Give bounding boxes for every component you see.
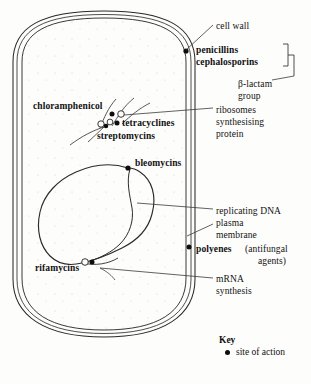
site-of-action-dot-icon	[225, 350, 230, 355]
label-chloramphenicol: chloramphenicol	[33, 101, 103, 112]
key-title: Key	[219, 335, 307, 345]
ribosome-circle-3	[107, 119, 113, 125]
label-agents: agents)	[258, 256, 286, 267]
label-streptomycins: streptomycins	[97, 131, 155, 142]
label-ribosomes: ribosomes	[216, 105, 256, 116]
bacterial-cell-diagram	[0, 0, 311, 384]
ribosome-circle-1	[118, 111, 125, 118]
label-cell-wall: cell wall	[216, 21, 249, 32]
site-dot-bleomycins	[125, 165, 130, 170]
antibiotic-sites-of-action-figure: penicillins cephalosporins chloramphenic…	[0, 0, 311, 384]
label-replicating-dna: replicating DNA	[216, 206, 281, 217]
key-legend: Key site of action	[219, 335, 307, 357]
label-protein: protein	[216, 129, 244, 140]
label-rifamycins: rifamycins	[35, 263, 79, 274]
beta-lactam-bracket	[283, 44, 288, 66]
ribosome-circle-2	[98, 121, 104, 127]
label-cephalosporins: cephalosporins	[196, 57, 258, 68]
site-dot-streptomycins	[104, 124, 109, 129]
site-dot-penicillins	[183, 48, 188, 53]
label-bleomycins: bleomycins	[135, 158, 181, 169]
key-entry-label: site of action	[236, 347, 285, 357]
ribosome-circle-4	[82, 259, 89, 266]
label-beta-lactam-group: group	[238, 91, 261, 102]
key-entry-site-of-action: site of action	[219, 347, 307, 357]
label-polyenes: polyenes	[196, 244, 232, 255]
label-penicillins: penicillins	[196, 45, 238, 56]
site-dot-polyenes	[187, 245, 192, 250]
label-beta-lactam: β-lactam	[238, 79, 272, 90]
label-synthesising: synthesising	[216, 117, 264, 128]
site-dot-tetracyclines	[115, 121, 120, 126]
label-membrane: membrane	[216, 230, 257, 241]
label-plasma: plasma	[216, 218, 244, 229]
label-mrna-synthesis: synthesis	[216, 286, 252, 297]
site-dot-chloramphenicol	[110, 112, 115, 117]
cytoplasm-fill	[22, 18, 186, 330]
beta-lactam-bracket-in	[272, 76, 294, 80]
site-dot-rifamycins	[90, 260, 95, 265]
label-tetracyclines: tetracyclines	[122, 118, 174, 129]
label-antifungal: (antifungal	[245, 244, 288, 255]
label-mrna: mRNA	[216, 274, 244, 285]
